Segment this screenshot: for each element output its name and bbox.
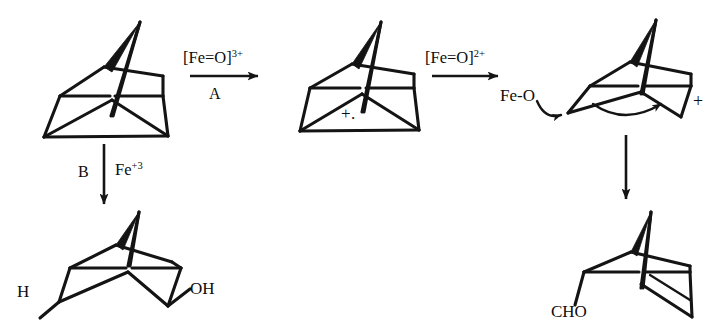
structure-quadricyclane-start — [44, 22, 168, 137]
reagent-label-step1-below: A — [209, 86, 221, 102]
charge-label-carbocation: + — [693, 92, 703, 110]
structure-product-cho — [575, 212, 692, 317]
reagent-step-b-charge: +3 — [132, 160, 143, 171]
atom-label-fe-o: Fe-O — [500, 87, 535, 104]
atom-label-aldehyde: CHO — [551, 303, 587, 320]
charge-label-radical-cation: +. — [341, 105, 356, 122]
reagent-step-b-formula: Fe — [115, 160, 132, 179]
structure-product-h-oh — [40, 212, 190, 318]
reagent-label-step-b-right: Fe+3 — [115, 162, 143, 179]
reagent-step1-charge: 3+ — [232, 48, 243, 59]
reagent-label-step-b-left: B — [78, 164, 89, 180]
reaction-scheme: [Fe=O]3+ A [Fe=O]2+ B Fe+3 +. Fe-O + H O… — [0, 0, 704, 331]
reagent-label-step1-above: [Fe=O]3+ — [183, 50, 243, 67]
reagent-step2-charge: 2+ — [474, 48, 485, 59]
reagent-step2-formula: [Fe=O] — [425, 48, 474, 67]
structure-radical-cation — [300, 22, 419, 131]
scheme-drawing-canvas — [0, 0, 704, 331]
reagent-label-step2-above: [Fe=O]2+ — [425, 50, 485, 67]
atom-label-hydroxyl: OH — [190, 280, 215, 297]
structure-iron-oxo-adduct — [537, 20, 691, 117]
reagent-step1-formula: [Fe=O] — [183, 48, 232, 67]
atom-label-hydrogen: H — [17, 283, 29, 300]
